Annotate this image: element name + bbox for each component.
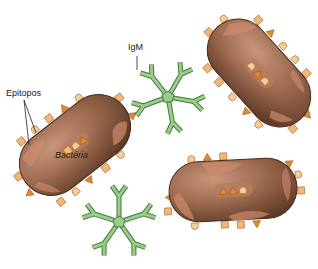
- igm-antibody-bottom: [83, 186, 156, 256]
- igm-bacteria-diagram: IgM Epitopos Bactéria: [0, 0, 318, 269]
- igm-antibody-center: [132, 62, 205, 133]
- bacteria-label: Bactéria: [55, 150, 88, 160]
- diagram-canvas: [0, 0, 318, 269]
- igm-label: IgM: [128, 42, 143, 52]
- epitopes-label: Epitopos: [6, 88, 41, 98]
- bacterium-bottom-right: [162, 148, 307, 232]
- bacterium-top-right: [184, 0, 318, 150]
